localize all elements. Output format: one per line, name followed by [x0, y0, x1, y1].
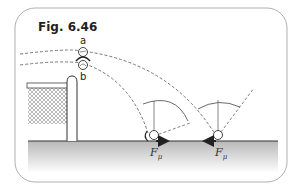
ball-bounce-1: [150, 131, 159, 140]
friction-label-1: Fμ: [150, 146, 162, 161]
ball-bounce-2: [214, 131, 223, 140]
angle-arc-1: [143, 100, 188, 121]
ball-label-a: a: [80, 35, 86, 46]
friction-label-2: Fμ: [215, 146, 227, 161]
figure-6-46: Fig. 6.46 a b Fμ Fμ: [0, 0, 305, 190]
figure-title: Fig. 6.46: [38, 20, 97, 34]
force-subscript: μ: [223, 153, 228, 161]
net-post: [67, 76, 77, 141]
force-symbol: F: [215, 146, 223, 159]
net-mesh: [28, 88, 68, 124]
ball-label-b: b: [80, 71, 86, 82]
rebound-2: [218, 88, 254, 136]
net-top-band: [27, 83, 69, 88]
angle-arc-2: [198, 102, 240, 109]
force-symbol: F: [150, 146, 158, 159]
ball-a: [79, 48, 88, 57]
force-subscript: μ: [158, 153, 163, 161]
rebound-1: [154, 123, 190, 136]
ball-b: [79, 61, 88, 70]
